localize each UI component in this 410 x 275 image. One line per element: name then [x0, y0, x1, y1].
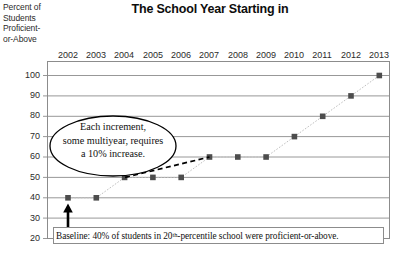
increment-callout-text: Each increment, some multiyear, requires…: [52, 120, 174, 161]
baseline-note-suffix: -percentile school were proficient-or-ab…: [177, 231, 338, 241]
data-point-2005: [150, 175, 156, 181]
y-tick-marks: [43, 76, 48, 239]
baseline-note-prefix: Baseline: 40% of students in 20: [56, 231, 172, 241]
baseline-note-text: Baseline: 40% of students in 20th-percen…: [56, 231, 339, 241]
data-point-2002: [65, 195, 71, 201]
callout-line-1: Each increment,: [52, 120, 174, 134]
data-point-2003: [94, 195, 100, 201]
data-point-2006: [178, 175, 184, 181]
data-point-2010: [292, 134, 298, 140]
data-point-2012: [348, 93, 354, 99]
baseline-arrow-icon: [63, 204, 73, 228]
data-point-2013: [377, 73, 383, 79]
data-point-2009: [263, 154, 269, 160]
chart-figure: Percent of Students Proficient- or-Above…: [0, 0, 410, 275]
data-point-2008: [235, 154, 241, 160]
callout-line-3: a 10% increase.: [52, 147, 174, 161]
callout-line-2: some multiyear, requires: [52, 134, 174, 148]
data-point-2011: [320, 114, 326, 120]
